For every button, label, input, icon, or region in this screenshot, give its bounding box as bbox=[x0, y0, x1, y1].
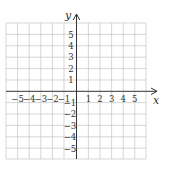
y-tick: −1 bbox=[64, 98, 77, 108]
y-tick: −3 bbox=[64, 121, 77, 131]
x-axis-label: x bbox=[153, 94, 160, 107]
y-tick: 1 bbox=[68, 75, 73, 85]
y-tick: 4 bbox=[68, 41, 73, 51]
x-tick: 2 bbox=[97, 94, 102, 104]
y-tick: −2 bbox=[64, 109, 77, 119]
x-tick: 5 bbox=[132, 94, 137, 104]
y-tick: −4 bbox=[64, 132, 77, 142]
x-tick: 3 bbox=[109, 94, 114, 104]
y-tick: 2 bbox=[68, 64, 73, 74]
y-tick: 3 bbox=[68, 52, 73, 62]
coordinate-plane: x y −5 −4 −3 −2 −1 1 2 3 4 5 5 4 3 2 1 −… bbox=[0, 0, 172, 179]
y-axis-label: y bbox=[64, 9, 72, 22]
x-tick: 4 bbox=[120, 94, 125, 104]
y-tick: −5 bbox=[64, 144, 77, 154]
axes bbox=[6, 14, 157, 159]
x-tick: 1 bbox=[86, 94, 91, 104]
y-tick: 5 bbox=[68, 30, 73, 40]
